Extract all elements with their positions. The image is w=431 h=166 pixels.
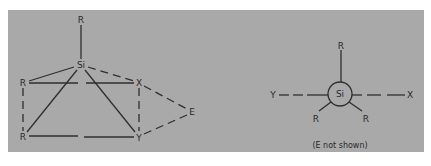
bond-si-r-lower-right xyxy=(349,102,362,111)
caption-e-not-shown: (E not shown) xyxy=(312,141,367,150)
atom-x: X xyxy=(136,78,142,88)
atom-r-lower-left: R xyxy=(313,114,319,124)
reaction-mechanism-diagram: R Si R X E R Y Si R R R Y X (E not shown… xyxy=(0,0,431,166)
atom-e: E xyxy=(189,107,195,117)
atom-r-top: R xyxy=(78,15,84,25)
atom-y-right: Y xyxy=(269,90,276,100)
bond-si-r-lower-left xyxy=(319,102,331,111)
edge-x-e xyxy=(144,86,187,109)
atom-r-top-right: R xyxy=(338,41,344,51)
bond-si-r-upper xyxy=(29,67,74,81)
atom-r-left-upper: R xyxy=(20,78,26,88)
atom-y: Y xyxy=(135,133,142,143)
edge-e-y xyxy=(144,115,187,134)
atom-r-lower-right: R xyxy=(363,114,369,124)
atom-si: Si xyxy=(77,60,85,70)
atom-si-center: Si xyxy=(336,89,344,99)
atom-x-right: X xyxy=(407,90,413,100)
left-trigonal-bipyramid: R Si R X E R Y xyxy=(20,15,195,143)
bond-si-x xyxy=(88,67,134,81)
right-newman-projection: Si R R R Y X (E not shown) xyxy=(269,41,413,150)
atom-r-left-lower: R xyxy=(20,132,26,142)
